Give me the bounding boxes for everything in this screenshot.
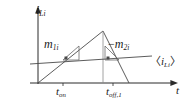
- average-current-label: 〈iLi〉: [150, 56, 181, 69]
- slope-fall-sub: 2i: [123, 43, 129, 52]
- average-current-line: [30, 56, 152, 64]
- t-on-sub: on: [59, 91, 66, 98]
- x-axis-label: t: [176, 85, 179, 96]
- average-close-bracket: 〉: [170, 55, 181, 67]
- y-axis-label-sub: Li: [39, 9, 45, 18]
- slope-rise-marker: [63, 46, 79, 60]
- slope-rise-var: m: [44, 37, 53, 51]
- average-open-bracket: 〈: [150, 55, 161, 67]
- t-on-label: ton: [56, 86, 66, 99]
- slope-fall-sign: −: [108, 37, 115, 51]
- slope-rise-sub: 1i: [53, 43, 59, 52]
- t-off-label: toff,1: [106, 86, 122, 99]
- slope-rise-label: m1i: [44, 38, 59, 52]
- slope-fall-label: −m2i: [108, 38, 129, 52]
- waveform-figure: iLi t m1i −m2i 〈iLi〉 ton toff,1: [0, 0, 186, 111]
- t-off-sub: off,1: [109, 91, 122, 98]
- x-axis-label-var: t: [176, 84, 179, 96]
- y-axis-label: iLi: [36, 4, 46, 18]
